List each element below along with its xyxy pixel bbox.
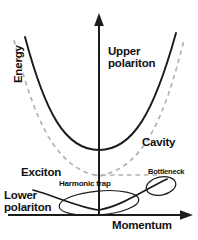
label-cavity: Cavity: [142, 136, 175, 148]
x-axis-arrowhead-icon: [180, 210, 193, 220]
label-upper-polariton: Upper polariton: [108, 45, 155, 70]
label-harmonic-trap: Harmonic trap: [59, 180, 111, 189]
label-bottleneck: Bottleneck: [148, 168, 184, 176]
label-exciton: Exciton: [21, 166, 61, 178]
polariton-dispersion-figure: Energy Momentum Upper polariton Cavity E…: [0, 0, 198, 240]
axis-label-momentum: Momentum: [112, 219, 172, 231]
label-lower-polariton: Lower polariton: [4, 189, 51, 214]
axis-label-energy: Energy: [12, 34, 24, 94]
bottleneck-ellipse: [144, 174, 177, 198]
y-axis-arrowhead-icon: [94, 13, 104, 26]
